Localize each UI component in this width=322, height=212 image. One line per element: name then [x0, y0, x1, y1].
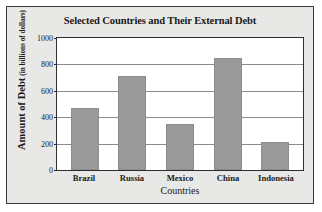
bar-slot — [61, 38, 109, 170]
bar-mexico — [166, 124, 194, 170]
y-tick-label: 200 — [41, 139, 53, 148]
bar-slot — [204, 38, 252, 170]
x-tick-label-china: China — [204, 173, 252, 183]
x-tick-label-mexico: Mexico — [156, 173, 204, 183]
bar-brazil — [71, 108, 99, 170]
chart-title: Selected Countries and Their External De… — [7, 15, 313, 26]
bar-indonesia — [261, 142, 289, 170]
bar-china — [214, 58, 242, 170]
y-tick-mark — [54, 170, 57, 171]
plot-area: 02004006008001000 — [56, 37, 304, 171]
bar-russia — [118, 76, 146, 170]
y-axis-title-units: (in billions of dollars) — [19, 10, 27, 76]
x-axis-title: Countries — [56, 185, 304, 196]
y-axis-title-main: Amount of Debt — [16, 78, 27, 150]
y-tick-label: 400 — [41, 113, 53, 122]
y-tick-label: 800 — [41, 60, 53, 69]
y-tick-label: 600 — [41, 86, 53, 95]
x-tick-label-russia: Russia — [108, 173, 156, 183]
bar-series — [57, 38, 303, 170]
bar-slot — [109, 38, 157, 170]
x-tick-label-brazil: Brazil — [60, 173, 108, 183]
y-tick-label: 1000 — [37, 34, 53, 43]
y-axis-title: Amount of Debt(in billions of dollars) — [11, 5, 29, 155]
bar-slot — [156, 38, 204, 170]
y-tick-label: 0 — [49, 166, 53, 175]
bar-slot — [251, 38, 299, 170]
x-axis-tick-labels: BrazilRussiaMexicoChinaIndonesia — [56, 173, 304, 183]
x-tick-label-indonesia: Indonesia — [252, 173, 300, 183]
chart-figure: Selected Countries and Their External De… — [6, 6, 314, 204]
